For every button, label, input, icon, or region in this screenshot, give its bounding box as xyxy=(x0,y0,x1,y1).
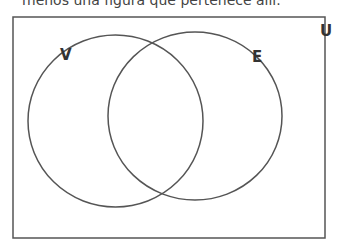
set-e-label: E xyxy=(252,48,262,66)
set-v-circle xyxy=(28,35,203,207)
universe-label: U xyxy=(320,22,332,40)
set-v-label: V xyxy=(60,46,72,64)
venn-diagram: V E U xyxy=(0,0,347,249)
